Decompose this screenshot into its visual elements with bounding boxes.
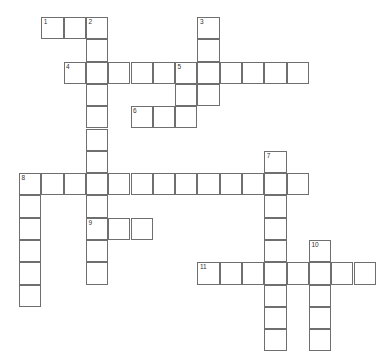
grid-cell[interactable] (264, 262, 286, 284)
cell-letter (243, 174, 263, 194)
cell-letter (198, 63, 218, 83)
cell-letter (154, 107, 174, 127)
grid-cell[interactable] (242, 262, 264, 284)
grid-cell[interactable] (309, 329, 331, 351)
grid-cell[interactable] (19, 195, 41, 217)
grid-cell[interactable]: 1 (41, 17, 63, 39)
grid-cell[interactable] (264, 62, 286, 84)
grid-cell[interactable] (287, 62, 309, 84)
grid-cell[interactable] (309, 285, 331, 307)
cell-letter (154, 174, 174, 194)
grid-cell[interactable] (108, 173, 130, 195)
grid-cell[interactable] (220, 173, 242, 195)
grid-cell[interactable] (64, 173, 86, 195)
grid-cell[interactable] (153, 173, 175, 195)
grid-cell[interactable] (175, 84, 197, 106)
grid-cell[interactable] (220, 62, 242, 84)
grid-cell[interactable] (19, 285, 41, 307)
grid-cell[interactable] (86, 62, 108, 84)
cell-number-8: 8 (22, 174, 26, 182)
cell-number-11: 11 (200, 263, 207, 271)
cell-letter (87, 241, 107, 261)
grid-cell[interactable] (287, 173, 309, 195)
grid-cell[interactable] (86, 151, 108, 173)
grid-cell[interactable] (131, 173, 153, 195)
grid-cell[interactable] (354, 262, 376, 284)
grid-cell[interactable] (108, 218, 130, 240)
grid-cell[interactable] (86, 129, 108, 151)
grid-cell[interactable] (64, 17, 86, 39)
grid-cell[interactable]: 5 (175, 62, 197, 84)
grid-cell[interactable] (86, 173, 108, 195)
cell-letter (87, 152, 107, 172)
grid-cell[interactable] (264, 173, 286, 195)
cell-letter (176, 85, 196, 105)
cell-letter (20, 286, 40, 306)
grid-cell[interactable] (197, 62, 219, 84)
grid-cell[interactable] (264, 218, 286, 240)
grid-cell[interactable] (287, 262, 309, 284)
grid-cell[interactable] (153, 106, 175, 128)
grid-cell[interactable] (197, 84, 219, 106)
grid-cell[interactable]: 7 (264, 151, 286, 173)
cell-letter (221, 174, 241, 194)
grid-cell[interactable] (41, 173, 63, 195)
grid-cell[interactable]: 3 (197, 17, 219, 39)
grid-cell[interactable]: 11 (197, 262, 219, 284)
grid-cell[interactable] (264, 307, 286, 329)
grid-cell[interactable]: 9 (86, 218, 108, 240)
cell-letter (243, 263, 263, 283)
grid-cell[interactable] (331, 262, 353, 284)
cell-letter (176, 174, 196, 194)
grid-cell[interactable] (19, 218, 41, 240)
grid-cell[interactable] (86, 39, 108, 61)
cell-number-5: 5 (178, 63, 182, 71)
grid-cell[interactable] (86, 84, 108, 106)
cell-letter (176, 107, 196, 127)
cell-number-1: 1 (44, 18, 48, 26)
cell-letter (221, 63, 241, 83)
grid-cell[interactable]: 2 (86, 17, 108, 39)
cell-letter (198, 40, 218, 60)
grid-cell[interactable] (242, 62, 264, 84)
grid-cell[interactable] (309, 262, 331, 284)
grid-cell[interactable] (175, 106, 197, 128)
grid-cell[interactable] (264, 329, 286, 351)
grid-cell[interactable] (264, 285, 286, 307)
grid-cell[interactable] (242, 173, 264, 195)
cell-number-2: 2 (88, 18, 92, 26)
grid-cell[interactable] (86, 106, 108, 128)
grid-cell[interactable] (197, 173, 219, 195)
grid-cell[interactable]: 4 (64, 62, 86, 84)
grid-cell[interactable] (197, 39, 219, 61)
grid-cell[interactable] (108, 62, 130, 84)
cell-letter (310, 286, 330, 306)
grid-cell[interactable] (264, 195, 286, 217)
grid-cell[interactable]: 8 (19, 173, 41, 195)
grid-cell[interactable] (220, 262, 242, 284)
grid-cell[interactable] (86, 195, 108, 217)
grid-cell[interactable] (153, 62, 175, 84)
grid-cell[interactable]: 10 (309, 240, 331, 262)
grid-cell[interactable] (309, 307, 331, 329)
grid-cell[interactable] (131, 218, 153, 240)
grid-cell[interactable] (19, 262, 41, 284)
cell-letter (20, 219, 40, 239)
crossword-grid[interactable]: 1234567891011 (0, 0, 379, 364)
cell-letter (265, 330, 285, 350)
cell-letter (265, 286, 285, 306)
cell-letter (198, 174, 218, 194)
cell-letter (198, 85, 218, 105)
cell-letter (355, 263, 375, 283)
grid-cell[interactable] (86, 262, 108, 284)
cell-letter (265, 174, 285, 194)
grid-cell[interactable] (131, 62, 153, 84)
cell-letter (154, 63, 174, 83)
grid-cell[interactable] (175, 173, 197, 195)
grid-cell[interactable] (264, 240, 286, 262)
grid-cell[interactable]: 6 (131, 106, 153, 128)
cell-number-4: 4 (66, 63, 70, 71)
grid-cell[interactable] (86, 240, 108, 262)
cell-letter (221, 263, 241, 283)
grid-cell[interactable] (19, 240, 41, 262)
